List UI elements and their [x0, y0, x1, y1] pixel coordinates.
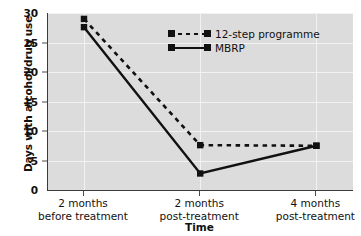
x-tick-label: 4 monthspost-treatment: [250, 197, 361, 222]
x-tick-label-line: 4 months: [250, 197, 361, 210]
y-tick-label: 30: [0, 8, 38, 19]
legend-label-12-step: 12-step programme: [215, 28, 320, 40]
y-tick-label: 15: [0, 96, 38, 107]
y-tick-label: 25: [0, 37, 38, 48]
legend-label-mbrp: MBRP: [215, 42, 245, 54]
square-marker-icon: [204, 44, 211, 51]
x-tick-label-line: 2 months: [134, 197, 264, 210]
x-tick-mark: [199, 191, 200, 196]
x-tick-label-line: 2 months: [18, 197, 148, 210]
x-axis-title: Time: [47, 221, 352, 233]
legend-swatch-solid: [168, 42, 211, 54]
legend-swatch-dashed: [168, 28, 211, 40]
data-point-marker: [197, 142, 203, 148]
y-tick-label: 0: [0, 185, 38, 196]
y-tick-label: 10: [0, 126, 38, 137]
data-point-marker: [197, 170, 203, 176]
data-point-marker: [313, 143, 319, 149]
square-marker-icon: [168, 44, 175, 51]
data-point-marker: [81, 16, 87, 22]
legend-item-12-step: 12-step programme: [168, 27, 348, 41]
legend: 12-step programme MBRP: [168, 27, 348, 55]
x-tick-label: 2 monthsbefore treatment: [18, 197, 148, 222]
square-marker-icon: [168, 30, 175, 37]
line-chart: Days with alcohol/drug use 051015202530 …: [0, 0, 361, 236]
x-tick-mark: [83, 191, 84, 196]
y-tick-label: 5: [0, 155, 38, 166]
data-point-marker: [81, 24, 87, 30]
square-marker-icon: [204, 30, 211, 37]
x-tick-label: 2 monthspost-treatment: [134, 197, 264, 222]
y-tick-label: 20: [0, 67, 38, 78]
x-tick-mark: [315, 191, 316, 196]
legend-item-mbrp: MBRP: [168, 41, 348, 55]
